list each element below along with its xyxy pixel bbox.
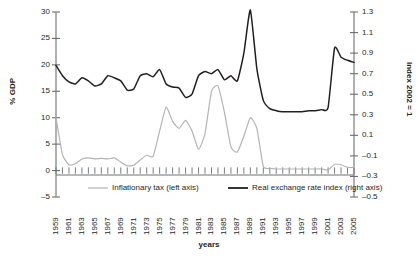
x-axis-tick-label: 1989	[245, 203, 254, 235]
x-axis-tick-label: 1959	[51, 203, 60, 235]
right-axis-tick-label: –0.5	[362, 192, 392, 201]
right-axis-tick-label: –0.1	[362, 151, 392, 160]
x-axis-tick-label: 1977	[168, 203, 177, 235]
y-axis-title: % GDP	[8, 78, 24, 105]
x-axis-ticks	[56, 167, 354, 173]
legend-label: Inflationary tax (left axis)	[112, 183, 199, 192]
x-axis-tick-label: 1985	[219, 203, 228, 235]
left-axis-tick-label: 20	[24, 60, 50, 69]
x-axis-tick-label: 1999	[310, 203, 319, 235]
x-axis-tick-label: 1961	[64, 203, 73, 235]
left-axis-tick-label: 30	[24, 7, 50, 16]
x-axis-tick-label: 1987	[232, 203, 241, 235]
left-axis-tick-label: 15	[24, 86, 50, 95]
x-axis-tick-label: 1971	[129, 203, 138, 235]
series-line-1	[56, 85, 354, 170]
x-axis-tick-label: 1983	[206, 203, 215, 235]
chart-figure: % GDP Index 2002 = 1 years 302520151050–…	[0, 0, 418, 256]
x-axis-tick-label: 1979	[181, 203, 190, 235]
right-axis-tick-label: 1.1	[362, 28, 392, 37]
x-axis-tick-label: 2003	[336, 203, 345, 235]
left-axis-tick-label: –5	[24, 192, 50, 201]
series-line-2	[56, 10, 354, 112]
x-axis-tick-label: 1963	[77, 203, 86, 235]
x-axis-tick-label: 1973	[142, 203, 151, 235]
left-axis-tick-label: 10	[24, 113, 50, 122]
x-axis-tick-label: 1993	[271, 203, 280, 235]
x-axis-tick-label: 1969	[116, 203, 125, 235]
x-axis-tick-label: 1981	[194, 203, 203, 235]
left-axis-tick-label: 0	[24, 166, 50, 175]
left-axis-tick-label: 25	[24, 33, 50, 42]
x-axis-title: years	[0, 240, 418, 249]
right-axis-tick-label: 1.3	[362, 7, 392, 16]
right-axis-tick-label: 0.1	[362, 130, 392, 139]
right-axis-tick-label: 0.7	[362, 69, 392, 78]
left-axis-tick-label: 5	[24, 139, 50, 148]
x-axis-tick-label: 2001	[323, 203, 332, 235]
right-axis-tick-label: –0.3	[362, 171, 392, 180]
right-axis-tick-label: 0.3	[362, 110, 392, 119]
x-axis-tick-label: 1995	[284, 203, 293, 235]
x-axis-tick-label: 2005	[349, 203, 358, 235]
x-axis-tick-label: 1975	[155, 203, 164, 235]
x-axis-tick-label: 1967	[103, 203, 112, 235]
x-axis-tick-label: 1997	[297, 203, 306, 235]
chart-series-lines	[56, 10, 354, 170]
legend-label: Real exchange rate index (right axis)	[252, 183, 382, 192]
right-axis-tick-label: 0.9	[362, 48, 392, 57]
x-axis-tick-label: 1991	[258, 203, 267, 235]
right-axis-tick-label: 0.5	[362, 89, 392, 98]
x-axis-tick-label: 1965	[90, 203, 99, 235]
y2-axis-title: Index 2002 = 1	[398, 62, 414, 116]
